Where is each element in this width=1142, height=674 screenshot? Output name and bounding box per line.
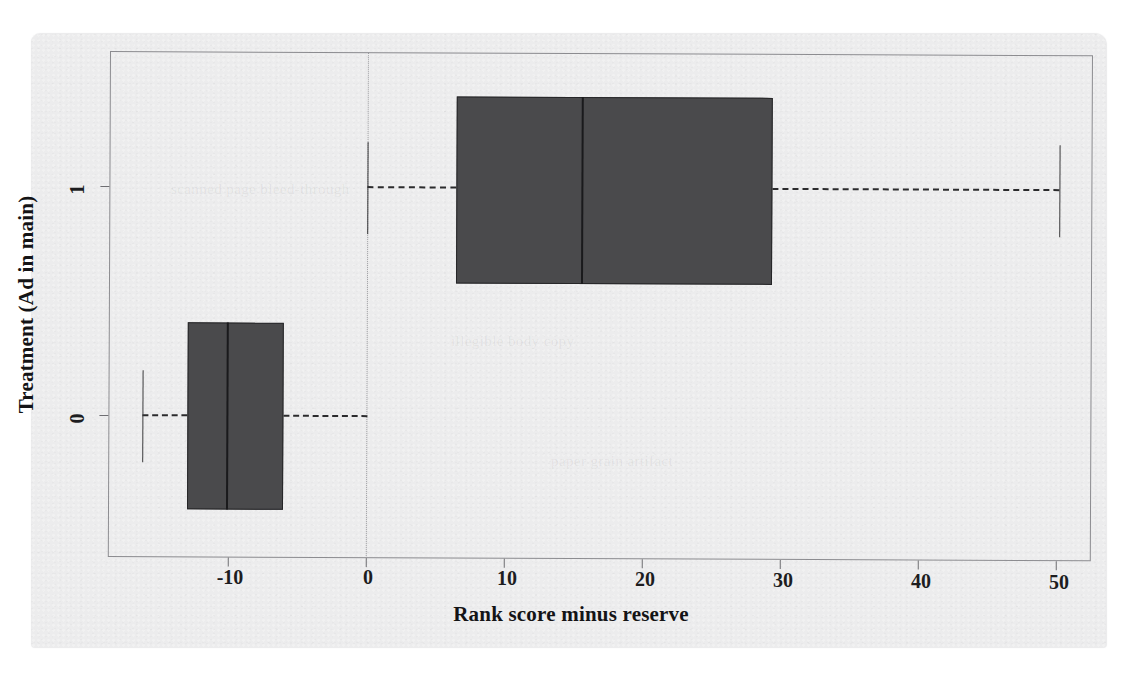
boxplot-figure: -10 0 10 20 30 40 50 1 0 Rank score minu… [0, 0, 1142, 674]
xticklabel-50: 50 [1049, 571, 1069, 594]
xticklabel-10: 10 [497, 567, 517, 590]
plot-area [108, 51, 1093, 561]
xtick-30 [780, 560, 781, 569]
xticklabel-0: 0 [363, 566, 373, 589]
xticklabel--10: -10 [217, 566, 244, 589]
xticklabel-30: 30 [773, 569, 793, 592]
yticklabel-0: 0 [66, 404, 89, 434]
xtick-20 [642, 559, 643, 568]
xtick-40 [918, 561, 919, 570]
xtick-50 [1056, 561, 1057, 570]
ytick-0 [99, 415, 108, 416]
yticklabel-1: 1 [66, 175, 89, 205]
box-treatment-0 [187, 322, 284, 509]
whisker-right-treatment-1 [772, 188, 1059, 191]
whisker-cap-high-treatment-1 [1059, 145, 1060, 237]
x-axis-label: Rank score minus reserve [0, 602, 1142, 627]
whisker-left-treatment-0 [142, 414, 187, 416]
box-treatment-1 [456, 97, 773, 285]
whisker-right-treatment-0 [283, 415, 367, 417]
y-axis-label: Treatment (Ad in main) [14, 135, 39, 475]
whisker-cap-low-treatment-0 [142, 370, 143, 462]
whisker-cap-low-treatment-1 [367, 142, 368, 234]
whisker-left-treatment-1 [367, 186, 456, 188]
xticklabel-20: 20 [635, 568, 655, 591]
ytick-1 [100, 186, 109, 187]
zero-reference-line [366, 52, 369, 558]
xticklabel-40: 40 [911, 570, 931, 593]
